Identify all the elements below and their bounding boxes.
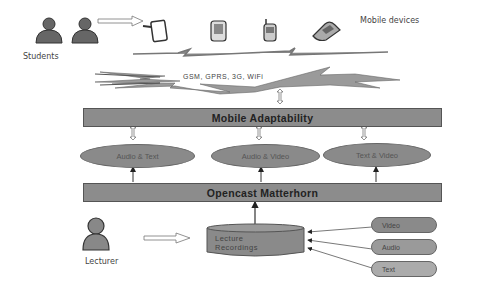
source-text: Text: [371, 261, 437, 277]
double-arrow-icon: [256, 125, 262, 140]
mobile-adaptability-box: Mobile Adaptability: [83, 108, 442, 127]
student-icon: [72, 18, 98, 43]
students-label: Students: [23, 52, 59, 61]
arrow-left-icon: [308, 240, 372, 249]
format-audio-video: Audio & Video: [211, 144, 320, 168]
format-audio-text: Audio & Text: [80, 144, 195, 168]
student-icon: [36, 18, 62, 43]
lecture-recordings-label: Lecture Recordings: [215, 234, 258, 252]
network-starburst: [95, 67, 400, 94]
lecturer-label: Lecturer: [85, 257, 118, 266]
network-label: GSM, GPRS, 3G, WiFi: [183, 73, 263, 80]
double-arrow-icon: [361, 125, 367, 140]
flip-phone-icon: [313, 22, 340, 40]
lecturer-to-recordings-arrow: [144, 233, 190, 243]
tablet-icon: [143, 20, 167, 42]
cellphone-icon: [264, 19, 276, 41]
lecturer-icon: [83, 218, 109, 250]
arrow-left-icon: [308, 227, 372, 232]
arrow-left-icon: [308, 248, 372, 268]
pda-icon: [211, 21, 226, 41]
recordings-line2: Recordings: [215, 243, 258, 252]
students-to-devices-arrow: [98, 16, 143, 26]
double-arrow-icon: [277, 89, 283, 104]
mobile-devices-label: Mobile devices: [360, 16, 419, 25]
wireless-signal-line: [133, 48, 388, 56]
opencast-matterhorn-box: Opencast Matterhorn: [83, 183, 442, 202]
source-audio: Audio: [371, 239, 437, 255]
double-arrow-icon: [130, 125, 136, 140]
source-video: Video: [371, 217, 437, 233]
format-text-video: Text & Video: [323, 143, 431, 167]
recordings-line1: Lecture: [215, 234, 258, 243]
